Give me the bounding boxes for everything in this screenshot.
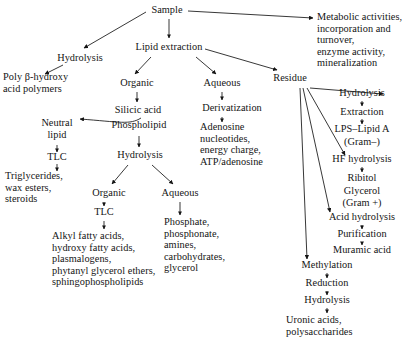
node-lipid-extraction: Lipid extraction — [136, 41, 203, 53]
node-aqueous-2: Aqueous — [162, 187, 199, 199]
node-methylation: Methylation — [302, 259, 353, 271]
node-metabolic-activities: Metabolic activities, incorporation and … — [317, 11, 402, 69]
node-adenosine-list: Adenosine nucleotides, energy charge, AT… — [200, 121, 263, 167]
node-muramic-acid: Muramic acid — [333, 244, 391, 256]
node-ribitol: Ribitol — [348, 172, 377, 184]
node-organic-1: Organic — [120, 77, 153, 89]
node-hydrolysis-3: Hydrolysis — [339, 87, 385, 99]
node-hydrolysis-4: Hydrolysis — [304, 294, 350, 306]
node-phospholipid: Phospholipid — [112, 119, 167, 131]
node-extraction: Extraction — [340, 106, 383, 118]
node-tlc-2: TLC — [94, 206, 114, 218]
node-tlc-1: TLC — [47, 151, 67, 163]
edge-lipid-to-residue — [205, 49, 277, 70]
node-triglycerides: Triglycerides, wax esters, steroids — [5, 170, 63, 205]
edge-lipid-to-organic — [135, 57, 151, 74]
node-poly-beta-hydroxy: Poly β-hydroxy acid polymers — [3, 71, 68, 94]
node-gram-negative: (Gram–) — [344, 136, 380, 148]
node-uronic-acids: Uronic acids, polysaccharides — [286, 314, 353, 337]
edge-hydrolysis2-to-aqueous2 — [152, 165, 173, 184]
edge-residue-to-acid-hydrolysis — [303, 88, 330, 212]
node-phosphate-list: Phosphate, phosphonate, amines, carbohyd… — [164, 216, 225, 274]
node-gram-positive: (Gram +) — [342, 197, 381, 209]
node-aqueous-1: Aqueous — [204, 77, 241, 89]
node-purification: Purification — [337, 228, 386, 240]
edge-hydrolysis2-to-organic2 — [112, 165, 128, 184]
node-glycerol: Glycerol — [344, 185, 380, 197]
edge-sample-to-metabolic — [188, 11, 313, 18]
edge-lipid-to-aqueous — [196, 57, 216, 74]
node-derivatization: Derivatization — [202, 102, 262, 114]
node-lps-lipid-a: LPS–Lipid A — [334, 123, 389, 135]
node-alkyl-fatty-acids: Alkyl fatty acids, hydroxy fatty acids, … — [52, 230, 155, 288]
node-hydrolysis-left: Hydrolysis — [57, 52, 103, 64]
node-neutral-lipid: Neutral lipid — [41, 117, 72, 140]
node-organic-2: Organic — [92, 187, 125, 199]
node-sample: Sample — [151, 4, 182, 16]
node-residue: Residue — [273, 72, 307, 84]
node-acid-hydrolysis: Acid hydrolysis — [329, 211, 395, 223]
node-hf-hydrolysis: HF hydrolysis — [332, 153, 391, 165]
node-silicic-acid: Silicic acid — [115, 104, 162, 116]
node-reduction: Reduction — [306, 277, 349, 289]
flowchart-diagram: Sample Hydrolysis Poly β-hydroxy acid po… — [0, 0, 410, 344]
edge-residue-to-methylation — [300, 88, 307, 259]
node-hydrolysis-2: Hydrolysis — [117, 149, 163, 161]
